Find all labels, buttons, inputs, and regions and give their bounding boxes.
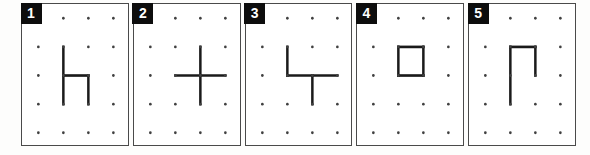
- grid-dot: [261, 131, 264, 134]
- grid-dot: [336, 17, 339, 20]
- grid-dot: [112, 103, 115, 106]
- grid-dot: [422, 131, 425, 134]
- grid-dot: [447, 74, 450, 77]
- grid-dot: [174, 74, 177, 77]
- grid-dot: [311, 17, 314, 20]
- grid-dot: [311, 74, 314, 77]
- grid-dot: [484, 74, 487, 77]
- panel-5-number-badge: 5: [468, 3, 489, 24]
- grid-dot: [397, 74, 400, 77]
- grid-dot: [199, 45, 202, 48]
- grid-dot: [447, 45, 450, 48]
- grid-dot: [199, 131, 202, 134]
- grid-dot: [286, 45, 289, 48]
- grid-dot: [37, 45, 40, 48]
- grid-dot: [559, 17, 562, 20]
- grid-dot: [112, 45, 115, 48]
- panel-1-dot-grid-figure: [22, 4, 128, 145]
- grid-dot: [286, 103, 289, 106]
- grid-dot: [37, 103, 40, 106]
- grid-dot: [174, 45, 177, 48]
- grid-dot: [397, 17, 400, 20]
- grid-dot: [174, 17, 177, 20]
- grid-dot: [62, 17, 65, 20]
- panel-1: 1: [21, 3, 129, 146]
- grid-dot: [149, 45, 152, 48]
- grid-dot: [112, 131, 115, 134]
- worksheet-panel-strip: 1 2 3 4 5: [0, 0, 590, 155]
- grid-dot: [224, 17, 227, 20]
- grid-dot: [174, 131, 177, 134]
- panel-2-number-badge: 2: [132, 3, 153, 24]
- grid-dot: [199, 17, 202, 20]
- panel-1-number-badge: 1: [21, 3, 42, 24]
- grid-dot: [559, 103, 562, 106]
- grid-dot: [261, 45, 264, 48]
- grid-dot: [484, 103, 487, 106]
- grid-dot: [62, 103, 65, 106]
- grid-dot: [224, 103, 227, 106]
- grid-dot: [199, 103, 202, 106]
- panel-3-number-badge: 3: [244, 3, 265, 24]
- grid-dot: [62, 45, 65, 48]
- panel-2-dot-grid-figure: [134, 4, 240, 145]
- grid-dot: [372, 45, 375, 48]
- grid-dot: [422, 74, 425, 77]
- grid-dot: [286, 74, 289, 77]
- grid-dot: [224, 45, 227, 48]
- grid-dot: [534, 17, 537, 20]
- grid-dot: [559, 74, 562, 77]
- grid-dot: [286, 131, 289, 134]
- grid-dot: [534, 45, 537, 48]
- grid-dot: [224, 74, 227, 77]
- grid-dot: [422, 45, 425, 48]
- grid-dot: [559, 131, 562, 134]
- panel-3-dot-grid-figure: [246, 4, 352, 145]
- grid-dot: [509, 45, 512, 48]
- grid-dot: [534, 74, 537, 77]
- grid-dot: [261, 103, 264, 106]
- grid-dot: [336, 103, 339, 106]
- grid-dot: [112, 74, 115, 77]
- grid-dot: [534, 103, 537, 106]
- grid-dot: [447, 103, 450, 106]
- grid-dot: [336, 45, 339, 48]
- panel-5-dot-grid-figure: [469, 4, 575, 145]
- grid-dot: [372, 103, 375, 106]
- grid-dot: [447, 131, 450, 134]
- grid-dot: [397, 131, 400, 134]
- grid-dot: [286, 17, 289, 20]
- grid-dot: [87, 103, 90, 106]
- panel-4-dot-grid-figure: [357, 4, 463, 145]
- grid-dot: [509, 74, 512, 77]
- grid-dot: [174, 103, 177, 106]
- grid-dot: [447, 17, 450, 20]
- grid-dot: [37, 74, 40, 77]
- grid-dot: [87, 45, 90, 48]
- grid-dot: [149, 103, 152, 106]
- grid-dot: [397, 103, 400, 106]
- grid-dot: [261, 74, 264, 77]
- panel-4-number-badge: 4: [356, 3, 377, 24]
- panel-3: 3: [245, 3, 353, 146]
- grid-dot: [87, 131, 90, 134]
- panel-4: 4: [356, 3, 464, 146]
- grid-dot: [311, 103, 314, 106]
- panel-2: 2: [133, 3, 241, 146]
- grid-dot: [224, 131, 227, 134]
- grid-dot: [149, 131, 152, 134]
- grid-dot: [422, 103, 425, 106]
- grid-dot: [484, 131, 487, 134]
- panel-5: 5: [468, 3, 576, 146]
- grid-dot: [422, 17, 425, 20]
- grid-dot: [534, 131, 537, 134]
- grid-dot: [311, 45, 314, 48]
- grid-dot: [372, 131, 375, 134]
- grid-dot: [397, 45, 400, 48]
- grid-dot: [509, 17, 512, 20]
- grid-dot: [199, 74, 202, 77]
- grid-dot: [372, 74, 375, 77]
- grid-dot: [336, 74, 339, 77]
- grid-dot: [112, 17, 115, 20]
- grid-dot: [87, 17, 90, 20]
